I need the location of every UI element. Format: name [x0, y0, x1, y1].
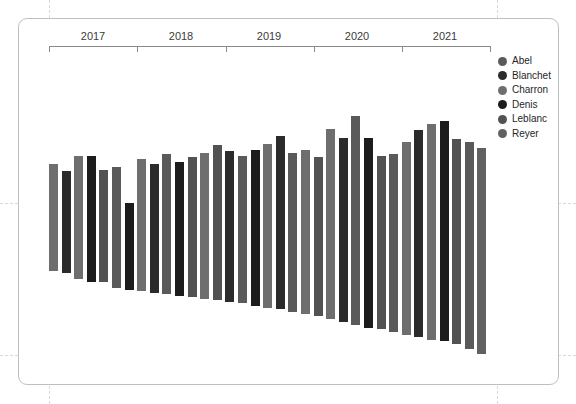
bar-column[interactable]: [137, 55, 146, 365]
bar-segment-negative[interactable]: [162, 203, 171, 294]
bar-segment-negative[interactable]: [200, 203, 209, 299]
bar-segment-positive[interactable]: [175, 162, 184, 203]
bar-column[interactable]: [162, 55, 171, 365]
bar-segment-positive[interactable]: [301, 150, 310, 203]
bar-segment-negative[interactable]: [213, 203, 222, 300]
bar-segment-negative[interactable]: [62, 203, 71, 273]
bar-column[interactable]: [112, 55, 121, 365]
bar-column[interactable]: [150, 55, 159, 365]
bar-segment-positive[interactable]: [452, 139, 461, 203]
bar-segment-negative[interactable]: [137, 203, 146, 291]
bar-column[interactable]: [200, 55, 209, 365]
bar-column[interactable]: [314, 55, 323, 365]
bar-segment-negative[interactable]: [276, 203, 285, 309]
bar-segment-negative[interactable]: [427, 203, 436, 340]
bar-segment-negative[interactable]: [440, 203, 449, 341]
bar-segment-negative[interactable]: [74, 203, 83, 279]
bar-segment-negative[interactable]: [402, 203, 411, 335]
bar-column[interactable]: [188, 55, 197, 365]
bar-column[interactable]: [276, 55, 285, 365]
bar-segment-negative[interactable]: [351, 203, 360, 325]
bar-segment-negative[interactable]: [339, 203, 348, 322]
legend-item-reyer[interactable]: Reyer: [498, 127, 572, 142]
bar-segment-positive[interactable]: [263, 144, 272, 203]
bar-column[interactable]: [175, 55, 184, 365]
bar-segment-negative[interactable]: [288, 203, 297, 312]
bar-segment-negative[interactable]: [112, 203, 121, 288]
bar-segment-positive[interactable]: [377, 156, 386, 203]
bar-segment-positive[interactable]: [251, 150, 260, 203]
bar-segment-negative[interactable]: [49, 203, 58, 271]
bar-column[interactable]: [301, 55, 310, 365]
bar-column[interactable]: [74, 55, 83, 365]
bar-segment-positive[interactable]: [99, 170, 108, 203]
bar-column[interactable]: [440, 55, 449, 365]
bar-segment-negative[interactable]: [465, 203, 474, 349]
bar-segment-positive[interactable]: [62, 171, 71, 203]
legend-item-blanchet[interactable]: Blanchet: [498, 69, 572, 84]
bar-segment-positive[interactable]: [49, 164, 58, 204]
bar-segment-negative[interactable]: [238, 203, 247, 303]
bar-segment-negative[interactable]: [364, 203, 373, 328]
bar-segment-positive[interactable]: [477, 148, 486, 203]
bar-column[interactable]: [477, 55, 486, 365]
bar-column[interactable]: [427, 55, 436, 365]
bar-column[interactable]: [402, 55, 411, 365]
bar-segment-positive[interactable]: [225, 151, 234, 203]
bar-column[interactable]: [339, 55, 348, 365]
bar-column[interactable]: [49, 55, 58, 365]
bar-column[interactable]: [87, 55, 96, 365]
bar-column[interactable]: [465, 55, 474, 365]
bar-segment-positive[interactable]: [427, 124, 436, 203]
bar-column[interactable]: [225, 55, 234, 365]
bar-segment-negative[interactable]: [125, 203, 134, 290]
bar-segment-positive[interactable]: [276, 136, 285, 203]
legend-item-leblanc[interactable]: Leblanc: [498, 112, 572, 127]
bar-column[interactable]: [351, 55, 360, 365]
bar-segment-positive[interactable]: [326, 129, 335, 204]
bar-column[interactable]: [238, 55, 247, 365]
bar-column[interactable]: [263, 55, 272, 365]
bar-segment-negative[interactable]: [314, 203, 323, 316]
bar-segment-negative[interactable]: [263, 203, 272, 308]
bar-segment-negative[interactable]: [251, 203, 260, 306]
bar-segment-negative[interactable]: [389, 203, 398, 332]
bar-segment-positive[interactable]: [402, 142, 411, 203]
bar-column[interactable]: [364, 55, 373, 365]
bar-segment-negative[interactable]: [175, 203, 184, 296]
bar-column[interactable]: [62, 55, 71, 365]
bar-segment-positive[interactable]: [288, 153, 297, 203]
bar-column[interactable]: [251, 55, 260, 365]
bar-segment-positive[interactable]: [339, 138, 348, 203]
bar-segment-negative[interactable]: [150, 203, 159, 293]
bar-segment-positive[interactable]: [150, 164, 159, 204]
bar-segment-positive[interactable]: [137, 159, 146, 203]
bar-segment-positive[interactable]: [440, 121, 449, 203]
bar-column[interactable]: [288, 55, 297, 365]
bar-segment-positive[interactable]: [87, 156, 96, 203]
bar-column[interactable]: [125, 55, 134, 365]
bar-segment-positive[interactable]: [314, 157, 323, 203]
bar-segment-negative[interactable]: [414, 203, 423, 337]
bar-segment-negative[interactable]: [452, 203, 461, 344]
bar-segment-positive[interactable]: [238, 156, 247, 203]
bar-segment-positive[interactable]: [465, 142, 474, 203]
legend-item-denis[interactable]: Denis: [498, 98, 572, 113]
bar-segment-negative[interactable]: [87, 203, 96, 282]
bar-segment-negative[interactable]: [301, 203, 310, 314]
bar-segment-negative[interactable]: [326, 203, 335, 319]
bar-column[interactable]: [389, 55, 398, 365]
legend-item-charron[interactable]: Charron: [498, 83, 572, 98]
bar-segment-positive[interactable]: [200, 153, 209, 203]
bar-column[interactable]: [377, 55, 386, 365]
bar-column[interactable]: [99, 55, 108, 365]
bar-segment-negative[interactable]: [225, 203, 234, 302]
bar-segment-positive[interactable]: [414, 130, 423, 203]
bar-segment-negative[interactable]: [188, 203, 197, 297]
bar-column[interactable]: [326, 55, 335, 365]
bar-segment-positive[interactable]: [112, 167, 121, 204]
bar-segment-negative[interactable]: [477, 203, 486, 354]
bar-segment-positive[interactable]: [389, 154, 398, 203]
bar-segment-positive[interactable]: [351, 116, 360, 203]
bar-segment-positive[interactable]: [188, 157, 197, 203]
